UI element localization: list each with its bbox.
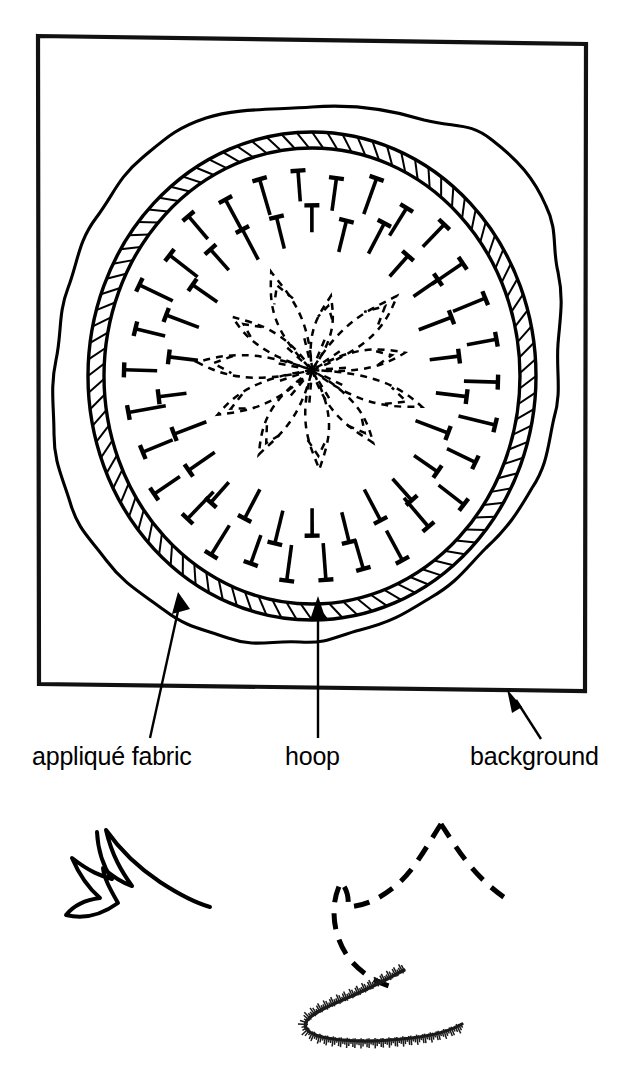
- illustration-canvas: {} appliqué fabric hoop background: [0, 0, 630, 1069]
- label-applique-fabric: appliqué fabric: [32, 742, 192, 770]
- label-background: background: [470, 742, 599, 770]
- figure-root: {} appliqué fabric hoop background: [0, 0, 630, 1069]
- label-hoop: hoop: [285, 742, 340, 770]
